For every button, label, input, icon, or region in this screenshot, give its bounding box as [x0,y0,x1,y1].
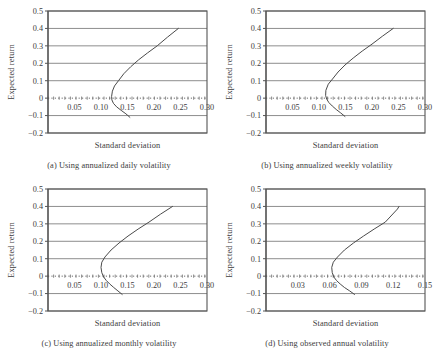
y-tick-label: 0.2 [251,59,261,68]
x-tick-label: 0.15 [338,103,352,112]
x-tick-label: 0.10 [94,281,108,290]
x-axis-title: Standard deviation [313,141,379,150]
x-tick-label: 0.12 [386,281,400,290]
y-tick-label: 0.5 [251,185,261,194]
x-tick-label: 0.15 [120,103,134,112]
x-tick-label: 0.05 [67,103,81,112]
x-tick-label: 0.10 [312,103,326,112]
y-tick-label: 0.3 [251,220,261,229]
panel-caption-a: (a) Using annualized daily volatility [0,160,218,171]
x-tick-label: 0.15 [418,281,432,290]
x-tick-label: 0.15 [120,281,134,290]
y-tick-label: 0.4 [251,24,261,33]
figure-panel-grid: −0.2−0.100.10.20.30.40.50.050.100.150.20… [0,0,436,357]
chart-panel-a: −0.2−0.100.10.20.30.40.50.050.100.150.20… [0,0,218,178]
plot-background [266,11,425,133]
y-tick-label: 0.4 [33,24,43,33]
panel-caption-c: (c) Using annualized monthly volatility [0,338,218,349]
plot-background [48,189,207,311]
x-tick-label: 0.05 [285,103,299,112]
x-tick-label: 0.20 [365,103,379,112]
x-axis-title: Standard deviation [313,319,379,328]
y-tick-label: 0.1 [33,255,43,264]
y-tick-label: 0 [39,272,43,281]
y-tick-label: 0.3 [251,42,261,51]
y-tick-label: 0.1 [251,255,261,264]
y-tick-label: 0.1 [33,77,43,86]
y-tick-label: −0.1 [28,111,43,120]
y-axis-title: Expected return [7,222,16,278]
y-tick-label: 0.3 [33,42,43,51]
chart-plot-d: −0.2−0.100.10.20.30.40.50.030.060.090.12… [218,178,436,328]
y-tick-label: −0.2 [28,129,43,138]
chart-svg-c: −0.2−0.100.10.20.30.40.50.050.100.150.20… [0,178,218,328]
x-tick-label: 0.05 [67,281,81,290]
y-axis-title: Expected return [225,222,234,278]
x-tick-label: 0.30 [200,103,214,112]
y-tick-label: 0.2 [251,237,261,246]
x-tick-label: 0.10 [94,103,108,112]
y-tick-label: −0.1 [28,289,43,298]
chart-panel-b: −0.2−0.100.10.20.30.40.50.050.100.150.20… [218,0,436,178]
x-tick-label: 0.25 [173,281,187,290]
x-tick-label: 0.25 [391,103,405,112]
y-tick-label: 0.5 [251,7,261,16]
y-tick-label: 0.1 [251,77,261,86]
chart-plot-a: −0.2−0.100.10.20.30.40.50.050.100.150.20… [0,0,218,150]
x-tick-label: 0.30 [200,281,214,290]
panel-caption-b: (b) Using annualized weekly volatility [218,160,436,171]
y-tick-label: −0.2 [246,129,261,138]
y-tick-label: 0.5 [33,7,43,16]
chart-panel-c: −0.2−0.100.10.20.30.40.50.050.100.150.20… [0,178,218,356]
x-tick-label: 0.09 [354,281,368,290]
y-tick-label: 0.3 [33,220,43,229]
y-tick-label: −0.1 [246,289,261,298]
x-tick-label: 0.30 [418,103,432,112]
panel-caption-d: (d) Using observed annual volatility [218,338,436,349]
y-tick-label: 0.2 [33,59,43,68]
chart-plot-b: −0.2−0.100.10.20.30.40.50.050.100.150.20… [218,0,436,150]
chart-panel-d: −0.2−0.100.10.20.30.40.50.030.060.090.12… [218,178,436,356]
y-tick-label: 0.4 [33,202,43,211]
y-tick-label: 0.2 [33,237,43,246]
y-tick-label: −0.2 [28,307,43,316]
y-tick-label: 0 [39,94,43,103]
x-axis-title: Standard deviation [95,319,161,328]
y-tick-label: 0 [257,94,261,103]
x-tick-label: 0.20 [147,281,161,290]
x-tick-label: 0.20 [147,103,161,112]
chart-svg-b: −0.2−0.100.10.20.30.40.50.050.100.150.20… [218,0,436,150]
x-tick-label: 0.25 [173,103,187,112]
y-axis-title: Expected return [7,44,16,100]
chart-svg-d: −0.2−0.100.10.20.30.40.50.030.060.090.12… [218,178,436,328]
x-tick-label: 0.06 [322,281,336,290]
y-tick-label: 0.5 [33,185,43,194]
x-tick-label: 0.03 [291,281,305,290]
x-axis-title: Standard deviation [95,141,161,150]
chart-plot-c: −0.2−0.100.10.20.30.40.50.050.100.150.20… [0,178,218,328]
y-tick-label: −0.1 [246,111,261,120]
y-tick-label: −0.2 [246,307,261,316]
chart-svg-a: −0.2−0.100.10.20.30.40.50.050.100.150.20… [0,0,218,150]
y-tick-label: 0 [257,272,261,281]
y-axis-title: Expected return [225,44,234,100]
plot-background [266,189,425,311]
y-tick-label: 0.4 [251,202,261,211]
